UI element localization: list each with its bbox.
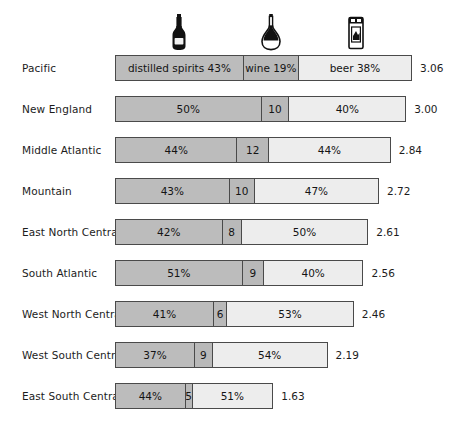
segment-label: wine 19% [245,62,296,74]
segment-label: 9 [200,349,207,361]
stacked-bar: 41%653% [115,301,354,327]
bar-segment-spirits: distilled spirits 43% [116,56,243,80]
segment-label: distilled spirits 43% [128,62,231,74]
stacked-bar: 51%940% [115,260,363,286]
bar-segment-spirits: 44% [116,138,236,162]
bar-segment-beer: 40% [264,261,363,285]
segment-label: 9 [249,267,256,279]
segment-label: 12 [246,144,259,156]
bar-segment-beer: 51% [193,384,273,408]
row-total-value: 3.00 [414,92,437,126]
chart-row: East North Central42%850%2.61 [0,215,468,249]
segment-label: 40% [336,103,359,115]
row-label-east-south-central: East South Central [0,379,108,413]
segment-label: 37% [143,349,166,361]
chart-icon-legend [0,10,468,52]
row-total-value: 1.63 [281,379,304,413]
row-label-south-atlantic: South Atlantic [0,256,108,290]
segment-label: 5 [185,390,192,402]
chart-row: West South Central37%954%2.19 [0,338,468,372]
row-total-value: 2.19 [336,338,359,372]
bar-segment-spirits: 51% [116,261,242,285]
bar-segment-spirits: 41% [116,302,213,326]
row-label-new-england: New England [0,92,108,126]
row-total-value: 2.61 [376,215,399,249]
stacked-bar: 50%1040% [115,96,406,122]
chart-row: West North Central41%653%2.46 [0,297,468,331]
bar-segment-spirits: 43% [116,179,229,203]
segment-label: 50% [293,226,316,238]
segment-label: 51% [221,390,244,402]
bar-segment-wine: 9 [194,343,213,367]
bar-segment-wine: 10 [229,179,255,203]
segment-label: 43% [161,185,184,197]
chart-row: Mountain43%1047%2.72 [0,174,468,208]
segment-label: beer 38% [330,62,381,74]
row-label-middle-atlantic: Middle Atlantic [0,133,108,167]
wine-decanter-icon [251,10,291,52]
bar-segment-spirits: 42% [116,220,222,244]
bar-segment-beer: 50% [242,220,368,244]
segment-label: 6 [217,308,224,320]
chart-row: Middle Atlantic44%1244%2.84 [0,133,468,167]
bar-segment-wine: 8 [222,220,242,244]
segment-label: 51% [167,267,190,279]
stacked-bar: distilled spirits 43%wine 19%beer 38% [115,55,412,81]
bar-segment-beer: beer 38% [299,56,411,80]
liquor-bottle-icon [159,10,199,52]
bar-segment-wine: 5 [185,384,193,408]
chart-row: East South Central44%551%1.63 [0,379,468,413]
chart-row: Pacificdistilled spirits 43%wine 19%beer… [0,51,468,85]
stacked-bar: 43%1047% [115,178,379,204]
bar-segment-beer: 53% [227,302,352,326]
stacked-bar-chart: Pacificdistilled spirits 43%wine 19%beer… [0,0,468,421]
segment-label: 10 [268,103,281,115]
bar-segment-spirits: 44% [116,384,185,408]
bar-segment-spirits: 37% [116,343,194,367]
beer-can-icon [336,10,376,52]
bar-segment-beer: 44% [269,138,389,162]
stacked-bar: 44%551% [115,383,273,409]
stacked-bar: 44%1244% [115,137,391,163]
stacked-bar: 37%954% [115,342,328,368]
bar-segment-spirits: 50% [116,97,261,121]
row-label-east-north-central: East North Central [0,215,108,249]
segment-label: 10 [235,185,248,197]
segment-label: 54% [258,349,281,361]
stacked-bar: 42%850% [115,219,368,245]
bar-segment-wine: wine 19% [243,56,299,80]
bar-segment-beer: 54% [213,343,327,367]
segment-label: 44% [318,144,341,156]
segment-label: 42% [157,226,180,238]
segment-label: 41% [153,308,176,320]
row-label-west-south-central: West South Central [0,338,108,372]
segment-label: 44% [165,144,188,156]
bar-segment-beer: 40% [289,97,405,121]
bar-segment-wine: 9 [242,261,264,285]
row-label-west-north-central: West North Central [0,297,108,331]
row-total-value: 3.06 [420,51,443,85]
bar-segment-wine: 10 [261,97,290,121]
row-label-mountain: Mountain [0,174,108,208]
segment-label: 47% [305,185,328,197]
segment-label: 50% [177,103,200,115]
bar-segment-wine: 6 [213,302,227,326]
row-label-pacific: Pacific [0,51,108,85]
segment-label: 44% [139,390,162,402]
segment-label: 8 [228,226,235,238]
chart-row: New England50%1040%3.00 [0,92,468,126]
row-total-value: 2.46 [362,297,385,331]
segment-label: 53% [278,308,301,320]
row-total-value: 2.56 [371,256,394,290]
bar-segment-beer: 47% [255,179,378,203]
bar-segment-wine: 12 [236,138,269,162]
segment-label: 40% [301,267,324,279]
row-total-value: 2.84 [399,133,422,167]
row-total-value: 2.72 [387,174,410,208]
chart-row: South Atlantic51%940%2.56 [0,256,468,290]
